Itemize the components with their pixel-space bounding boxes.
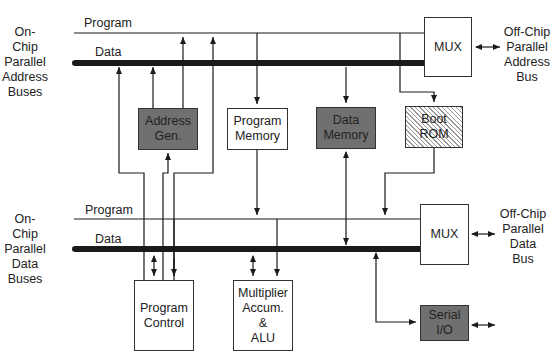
label-on-chip-address-buses: On-Chip Parallel Address Buses (2, 25, 48, 100)
block-address-gen-label: Address Gen. (145, 114, 191, 144)
block-data-mux: MUX (420, 204, 469, 265)
block-mac-alu: Multiplier Accum. & ALU (233, 280, 293, 351)
block-program-memory-label: Program Memory (234, 114, 282, 144)
label-off-chip-data-bus: Off-Chip Parallel Data Bus (496, 207, 550, 267)
label-data-program-bus: Program (85, 203, 133, 218)
label-address-program-bus: Program (84, 16, 132, 31)
block-data-mux-label: MUX (431, 227, 459, 242)
block-serial-io: Serial I/O (420, 305, 469, 341)
label-address-data-bus: Data (95, 45, 121, 60)
label-off-chip-address-bus: Off-Chip Parallel Address Bus (500, 25, 554, 85)
block-program-memory: Program Memory (227, 108, 288, 150)
label-on-chip-data-buses: On-Chip Parallel Data Buses (2, 212, 48, 287)
block-address-mux: MUX (424, 17, 472, 77)
block-boot-rom-label: Boot ROM (419, 112, 448, 142)
block-mac-alu-label: Multiplier Accum. & ALU (238, 286, 288, 346)
block-data-memory-label: Data Memory (323, 113, 368, 143)
block-serial-io-label: Serial I/O (429, 308, 461, 338)
block-data-memory: Data Memory (316, 107, 376, 149)
block-boot-rom: Boot ROM (405, 106, 463, 148)
block-address-mux-label: MUX (434, 40, 462, 55)
block-program-control-label: Program Control (140, 301, 188, 331)
label-data-data-bus: Data (95, 232, 121, 247)
block-program-control: Program Control (134, 280, 194, 351)
block-address-gen: Address Gen. (138, 108, 198, 150)
